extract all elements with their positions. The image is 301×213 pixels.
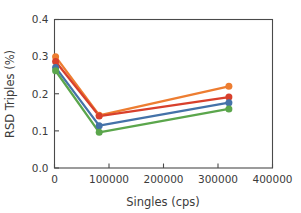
data-point-series-blue <box>96 122 103 129</box>
y-tick-label: 0.4 <box>32 13 49 25</box>
chart-figure: 0100000200000300000400000 0.00.10.20.30.… <box>0 0 301 213</box>
data-point-series-green <box>225 105 232 112</box>
x-tick-label: 100000 <box>89 173 129 185</box>
x-tick-label: 300000 <box>198 173 238 185</box>
x-tick-label: 400000 <box>252 173 292 185</box>
data-point-series-green <box>96 129 103 136</box>
y-tick-label: 0.1 <box>32 125 49 137</box>
chart-canvas: 0100000200000300000400000 0.00.10.20.30.… <box>0 0 301 213</box>
data-point-series-red <box>96 113 103 120</box>
y-tick-label: 0.3 <box>32 50 49 62</box>
x-tick-label: 0 <box>51 173 58 185</box>
y-axis-title: RSD Triples (%) <box>3 50 17 138</box>
data-point-series-blue <box>225 99 232 106</box>
data-point-series-green <box>52 67 59 74</box>
x-tick-label: 200000 <box>143 173 183 185</box>
y-tick-label: 0.2 <box>32 88 49 100</box>
x-axis-title: Singles (cps) <box>126 195 200 209</box>
data-point-series-orange <box>225 83 232 90</box>
y-tick-label: 0.0 <box>32 162 49 174</box>
